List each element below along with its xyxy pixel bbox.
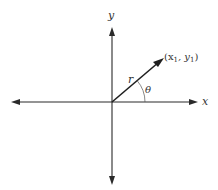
polar-coordinate-diagram: y x r θ (x1, y1)	[0, 0, 218, 190]
x-axis	[11, 99, 198, 105]
magnitude-label-r: r	[128, 73, 134, 86]
endpoint-sep: , y	[178, 51, 190, 62]
x-axis-right-arrowhead-icon	[189, 99, 198, 105]
vector-r	[112, 58, 164, 102]
endpoint-open: (x	[164, 51, 174, 62]
y-axis-label: y	[107, 9, 115, 22]
x-axis-left-arrowhead-icon	[11, 99, 20, 105]
x-axis-label: x	[202, 95, 209, 108]
endpoint-close: )	[195, 51, 199, 62]
angle-label-theta: θ	[145, 84, 151, 95]
y-axis-down-arrowhead-icon	[109, 176, 115, 185]
y-axis	[109, 27, 115, 185]
endpoint-label: (x1, y1)	[164, 51, 199, 64]
y-axis-up-arrowhead-icon	[109, 27, 115, 36]
angle-arc	[137, 81, 145, 102]
